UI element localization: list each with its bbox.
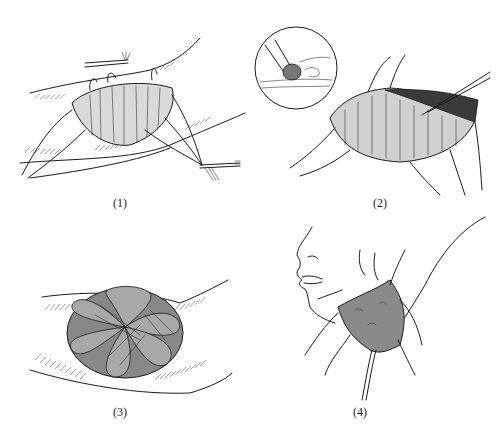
panel-3: (3) (0, 215, 250, 431)
panel-2: (2) (250, 0, 503, 215)
panel-4-label: (4) (340, 405, 380, 420)
panel-1-label: (1) (100, 196, 140, 211)
panel-1: (1) (0, 0, 250, 215)
illustration-graft-lifted (250, 0, 503, 215)
panel-4: (4) (250, 215, 503, 431)
illustration-bolster-dressing (0, 215, 250, 431)
illustration-graft-sutured (0, 0, 250, 215)
panel-2-label: (2) (360, 196, 400, 211)
panel-3-label: (3) (100, 405, 140, 420)
illustration-face-graft (250, 215, 503, 431)
